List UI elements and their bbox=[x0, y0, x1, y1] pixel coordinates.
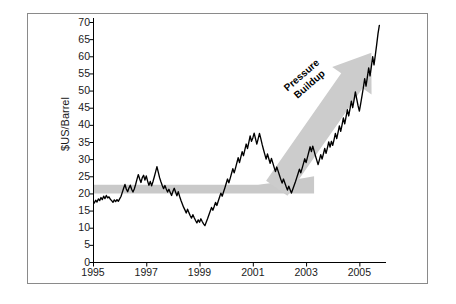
y-axis-ticks bbox=[90, 23, 94, 263]
pressure-arrow bbox=[266, 53, 371, 196]
axes bbox=[90, 18, 387, 267]
shape-layer bbox=[93, 53, 372, 196]
chart-figure: $US/Barrel 0510152025303540455055606570 … bbox=[0, 0, 456, 304]
plot-svg bbox=[0, 0, 456, 304]
x-axis-ticks bbox=[94, 263, 360, 267]
